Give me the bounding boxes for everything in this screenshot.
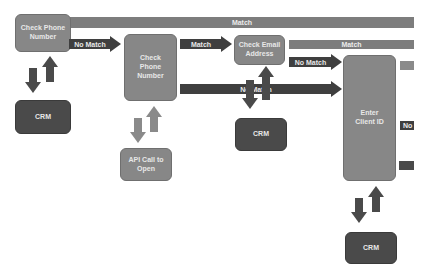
check-email-address-label: Check Email Address — [238, 41, 282, 59]
down-arrow-icon — [352, 198, 366, 223]
right-stub-no: No — [400, 121, 414, 130]
no-match-arrow-1: No Match — [69, 37, 121, 51]
check-phone-number-2-label: Check Phone Number — [136, 54, 166, 80]
arrow-head-icon — [331, 54, 342, 70]
enter-client-id-label: Enter Client ID — [352, 109, 388, 127]
check-phone-number-1-label: Check Phone Number — [18, 24, 68, 42]
crm-node-3: CRM — [345, 232, 397, 264]
right-stub-bottom — [399, 161, 414, 170]
crm-3-label: CRM — [363, 244, 379, 253]
crm-node-2: CRM — [235, 118, 287, 151]
arrow-head-icon — [110, 36, 121, 52]
up-arrow-icon — [43, 56, 57, 82]
down-arrow-icon — [243, 80, 257, 109]
down-arrow-icon — [131, 118, 145, 143]
crm-2-label: CRM — [253, 130, 269, 139]
enter-client-id-node: Enter Client ID — [343, 55, 396, 181]
crm-1-label: CRM — [35, 113, 51, 122]
no-match-arrow-1-label: No Match — [69, 39, 111, 49]
check-phone-number-node-2: Check Phone Number — [124, 34, 177, 101]
match-bar-3: Match — [289, 40, 414, 49]
api-call-to-open-label: API Call to Open — [127, 156, 165, 174]
check-email-address-node: Check Email Address — [234, 35, 285, 65]
top-match-label: Match — [232, 19, 252, 26]
arrow-head-icon — [331, 81, 342, 97]
crm-node-1: CRM — [15, 100, 71, 134]
api-call-to-open-node: API Call to Open — [120, 148, 172, 181]
arrow-head-icon — [221, 36, 232, 52]
no-match-arrow-2: No Match — [289, 55, 342, 69]
check-phone-number-node-1: Check Phone Number — [15, 14, 71, 52]
up-arrow-icon — [369, 186, 383, 212]
down-arrow-icon — [26, 68, 40, 93]
no-match-arrow-2-label: No Match — [289, 57, 332, 67]
right-stub-no-label: No — [403, 122, 412, 129]
top-match-bar: Match — [70, 17, 414, 28]
up-arrow-icon — [147, 106, 161, 132]
up-arrow-icon — [259, 66, 273, 100]
match-bar-3-label: Match — [341, 41, 361, 48]
right-stub-top — [400, 61, 414, 70]
match-arrow-2: Match — [180, 37, 232, 51]
match-arrow-2-label: Match — [180, 39, 222, 49]
